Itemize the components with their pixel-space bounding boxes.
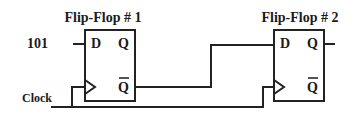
clock-label: Clock: [22, 91, 52, 105]
ff2-qbar-pin: Q: [307, 80, 318, 95]
ff2-d-pin: D: [280, 36, 290, 51]
ff2-q-pin: Q: [307, 36, 318, 51]
ff1-d-pin: D: [91, 36, 101, 51]
flip-flop-1: D Q Q: [85, 30, 135, 101]
circuit-diagram: Flip-Flop # 1 Flip-Flop # 2 101 Clock D …: [0, 0, 357, 117]
ff1-title: Flip-Flop # 1: [64, 10, 141, 25]
clock-ff1-branch-wire: [72, 87, 85, 107]
flip-flop-2: D Q Q: [274, 30, 324, 101]
input-label: 101: [27, 36, 48, 51]
ff1-qbar-to-ff2-d-wire: [135, 45, 274, 87]
ff1-qbar-pin: Q: [118, 80, 129, 95]
ff2-title: Flip-Flop # 2: [261, 10, 338, 25]
ff1-q-pin: Q: [118, 36, 129, 51]
